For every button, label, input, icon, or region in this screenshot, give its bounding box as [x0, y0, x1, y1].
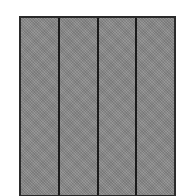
panel-4	[135, 18, 174, 195]
panel-3	[97, 18, 136, 195]
panel-2	[58, 18, 97, 195]
four-panel-rectangle	[19, 16, 176, 196]
panel-1	[21, 18, 58, 195]
